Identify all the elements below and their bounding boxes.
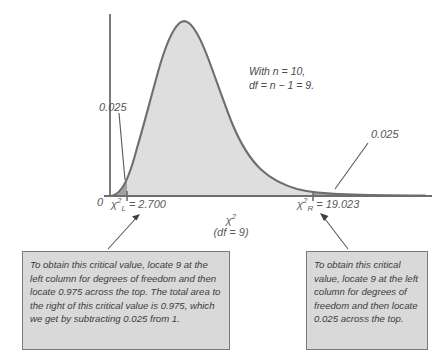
right-callout-text: To obtain this critical value, locate 9 … <box>314 258 420 326</box>
x-axis-title-exponent: 2 <box>232 212 236 221</box>
right-critical-value-callout: To obtain this critical value, locate 9 … <box>306 251 428 350</box>
center-body-region <box>127 21 313 196</box>
left-critical-value-label: χ2L = 2.700 <box>111 196 166 213</box>
right-callout-arrow-line <box>322 215 348 249</box>
x-axis-title: χ2 (df = 9) <box>196 212 266 239</box>
right-critical-subscript: R <box>307 204 313 213</box>
sample-size-note-line-2: df = n − 1 = 9. <box>249 78 314 92</box>
sample-size-note-line-1: With n = 10, <box>249 64 314 78</box>
left-critical-equals-value: = 2.700 <box>129 198 166 210</box>
right-tail-area-label: 0.025 <box>371 128 399 141</box>
left-area-leader-line <box>119 113 125 180</box>
origin-label: 0 <box>97 196 103 209</box>
x-axis-title-symbol: χ2 <box>196 212 266 226</box>
left-callout-arrowhead <box>132 214 140 221</box>
right-area-leader-line <box>335 143 368 189</box>
right-critical-value-label: χ2R = 19.023 <box>297 196 359 213</box>
chi-square-distribution-figure: 0.025 0.025 With n = 10, df = n − 1 = 9.… <box>0 0 447 362</box>
left-callout-text: To obtain this critical value, locate 9 … <box>30 258 222 326</box>
right-callout-arrowhead <box>320 213 329 221</box>
sample-size-note: With n = 10, df = n − 1 = 9. <box>249 64 314 92</box>
left-critical-value-callout: To obtain this critical value, locate 9 … <box>22 251 230 350</box>
x-axis-subtitle: (df = 9) <box>196 226 266 239</box>
left-callout-arrow-line <box>108 216 138 249</box>
left-tail-area-label: 0.025 <box>99 101 127 114</box>
left-critical-subscript: L <box>121 204 125 213</box>
right-critical-equals-value: = 19.023 <box>316 198 359 210</box>
